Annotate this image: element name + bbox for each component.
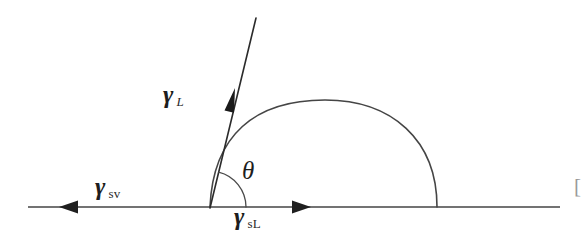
gamma-solid-liquid-subscript: sL	[247, 216, 261, 231]
gamma-solid-liquid-symbol: γ	[234, 203, 244, 230]
figure-canvas: γL γsv γsL θ [	[0, 0, 586, 250]
gamma-liquid-subscript: L	[176, 94, 184, 109]
gamma-liquid-symbol: γ	[163, 81, 173, 108]
gamma-solid-vapor-symbol: γ	[95, 173, 105, 200]
label-contact-angle: θ	[242, 158, 254, 183]
gamma-sv-arrowhead-icon	[59, 201, 78, 214]
edge-bracket-artifact: [	[574, 176, 581, 197]
gamma-sl-arrowhead-icon	[292, 201, 311, 214]
gamma-solid-vapor-subscript: sv	[108, 186, 120, 201]
label-gamma-liquid: γL	[163, 82, 181, 107]
contact-angle-diagram	[0, 0, 586, 250]
label-gamma-solid-liquid: γsL	[234, 204, 258, 229]
droplet-profile-arc	[210, 100, 437, 207]
label-gamma-solid-vapor: γsv	[95, 174, 118, 199]
gamma-l-arrowhead-icon	[225, 88, 236, 113]
